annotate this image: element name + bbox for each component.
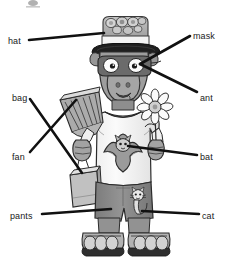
top-edge-artifact: [26, 0, 40, 8]
flower-petals: [136, 89, 173, 124]
label-bag: bag: [12, 93, 27, 103]
label-fan: fan: [12, 152, 25, 162]
label-bat: bat: [200, 152, 213, 162]
label-cat: cat: [202, 211, 214, 221]
pants-group: [95, 182, 153, 221]
label-ant: ant: [200, 93, 213, 103]
feet-group: [82, 218, 170, 256]
label-pants: pants: [10, 211, 33, 221]
leader-line-hat: [29, 33, 104, 40]
leader-line-ant: [140, 64, 197, 92]
diagram-canvas: hatmaskantbagfanbatpantscat: [0, 0, 227, 267]
label-mask: mask: [193, 31, 215, 41]
label-hat: hat: [8, 36, 21, 46]
